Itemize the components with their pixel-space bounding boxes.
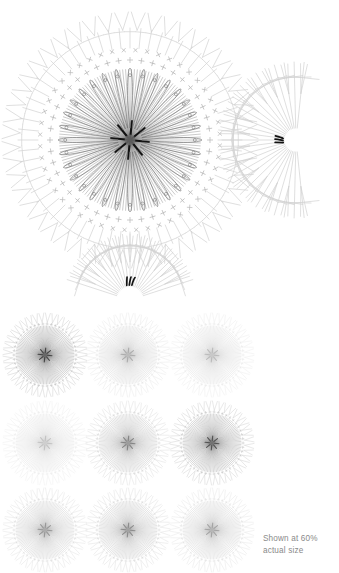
- motif-thumbnail-grid: [3, 313, 254, 572]
- page-background: [0, 0, 339, 573]
- scale-caption-line-2: actual size: [263, 545, 335, 557]
- crochet-chart-canvas: [0, 0, 339, 573]
- scale-caption: Shown at 60% actual size: [263, 533, 335, 556]
- pattern-chart-page: Shown at 60% actual size: [0, 0, 339, 573]
- scale-caption-line-1: Shown at 60%: [263, 533, 335, 545]
